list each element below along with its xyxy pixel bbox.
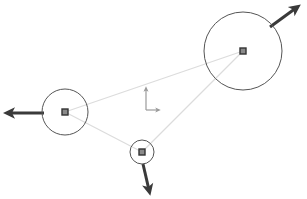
diagram-canvas [0,0,307,199]
center-of-mass-marker [139,149,145,155]
force-arrow-down [143,164,149,190]
medium-circle-body[interactable] [9,89,88,135]
bodies-group [9,8,296,190]
center-of-mass-marker [62,109,68,115]
large-circle-body[interactable] [204,8,296,90]
force-arrow-up-right [270,8,296,27]
scene-svg [0,0,307,199]
link-small-to-large [142,51,243,152]
link-medium-to-large [65,51,243,112]
link-lines-group [65,51,243,152]
center-of-mass-marker [240,48,246,54]
coordinate-axes-indicator [146,89,158,110]
